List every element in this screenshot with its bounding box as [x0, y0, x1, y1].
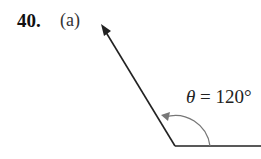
figure-canvas: 40. (a) θ = 120°	[0, 0, 261, 159]
angle-value: = 120°	[195, 86, 251, 107]
theta-symbol: θ	[186, 86, 195, 107]
arc-arrow-icon	[161, 112, 170, 121]
arrow-head-icon	[101, 24, 111, 36]
angle-diagram	[0, 0, 261, 159]
terminal-side	[104, 29, 175, 146]
angle-label: θ = 120°	[186, 86, 252, 108]
